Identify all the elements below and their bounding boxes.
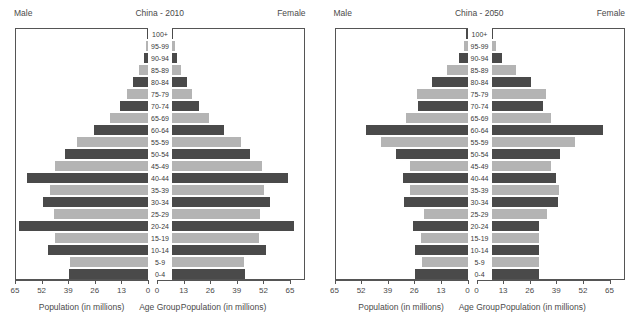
male-bar-zone: [15, 101, 148, 111]
female-bar-zone: [172, 209, 305, 219]
female-bar: [492, 149, 561, 159]
female-bar-zone: [172, 65, 305, 75]
axis-tick: [210, 280, 211, 284]
age-group-label: 5-9: [148, 256, 172, 268]
female-bar-zone: [492, 65, 625, 75]
female-bar: [492, 41, 496, 51]
male-bar: [69, 269, 148, 279]
female-bar: [172, 245, 266, 255]
female-bar-zone: [172, 149, 305, 159]
male-bar: [410, 161, 467, 171]
age-group-label: 50-54: [468, 148, 492, 160]
axis-tick: [361, 280, 362, 284]
male-bar-zone: [15, 209, 148, 219]
female-bar: [492, 65, 516, 75]
female-bar: [492, 29, 493, 39]
pyramid-panel-2050: Male China - 2050 Female 100+95-9990-948…: [320, 0, 639, 321]
age-group-label: 15-19: [468, 232, 492, 244]
male-bar: [424, 209, 468, 219]
age-group-label: 85-89: [468, 64, 492, 76]
x-tick-labels-female-2050: 01326395265: [477, 286, 610, 298]
x-axis-male-2050: [335, 280, 468, 285]
axis-tick: [237, 280, 238, 284]
male-bar-zone: [335, 89, 468, 99]
age-group-label: 95-99: [148, 40, 172, 52]
female-bar-zone: [492, 185, 625, 195]
axis-tick-label: 26: [90, 286, 99, 295]
age-group-label: 50-54: [148, 148, 172, 160]
axis-tick-label: 13: [117, 286, 126, 295]
female-bar-zone: [492, 233, 625, 243]
axis-tick-label: 52: [37, 286, 46, 295]
female-bar-zone: [492, 173, 625, 183]
x-axis-female-2050: [477, 280, 610, 285]
female-bar: [172, 101, 199, 111]
axis-tick: [15, 280, 16, 284]
female-bar-zone: [492, 149, 625, 159]
axis-tick-label: 13: [436, 286, 445, 295]
male-bar: [381, 137, 467, 147]
female-bar-zone: [172, 233, 305, 243]
axis-tick: [388, 280, 389, 284]
panel-header-2010: Male China - 2010 Female: [0, 8, 320, 22]
female-bar: [492, 185, 560, 195]
age-group-label: 55-59: [468, 136, 492, 148]
male-bar: [410, 185, 467, 195]
female-bar: [492, 113, 552, 123]
axis-tick: [290, 280, 291, 284]
male-bar-zone: [15, 41, 148, 51]
age-group-label: 60-64: [148, 124, 172, 136]
female-bar: [172, 209, 260, 219]
female-bar: [492, 245, 540, 255]
plot-area-2050: 100+95-9990-9485-8980-8475-7970-7465-696…: [335, 28, 625, 280]
male-bar: [133, 77, 148, 87]
age-group-label: 85-89: [148, 64, 172, 76]
male-bar: [406, 113, 467, 123]
x-tick-labels-male-2050: 65523926130: [335, 286, 468, 298]
female-bar: [172, 173, 288, 183]
axis-tick: [184, 280, 185, 284]
female-bar-zone: [492, 113, 625, 123]
male-bar-zone: [15, 29, 148, 39]
male-bar-zone: [335, 233, 468, 243]
female-bar-zone: [172, 245, 305, 255]
age-group-label: 15-19: [148, 232, 172, 244]
female-bar-zone: [492, 53, 625, 63]
male-bar: [48, 245, 148, 255]
female-bar-zone: [172, 125, 305, 135]
age-group-label: 45-49: [468, 160, 492, 172]
male-bar-zone: [335, 221, 468, 231]
x-axis-label-female: Population (in millions): [157, 302, 290, 312]
male-bar: [127, 89, 148, 99]
male-bar-zone: [15, 125, 148, 135]
male-bar-zone: [15, 89, 148, 99]
axis-tick-label: 39: [232, 286, 241, 295]
male-bar-zone: [15, 221, 148, 231]
female-bar-zone: [492, 257, 625, 267]
female-bar: [492, 233, 539, 243]
male-bar-zone: [335, 77, 468, 87]
age-group-label: 80-84: [468, 76, 492, 88]
male-bar: [94, 125, 148, 135]
female-bar-zone: [492, 245, 625, 255]
age-group-label: 0-4: [148, 268, 172, 280]
axis-tick-label: 13: [499, 286, 508, 295]
female-bar-zone: [172, 197, 305, 207]
female-bar-zone: [492, 41, 625, 51]
female-bar: [492, 101, 544, 111]
age-group-label: 25-29: [148, 208, 172, 220]
female-bar: [172, 149, 250, 159]
female-side-label: Female: [277, 8, 305, 18]
female-bar: [172, 89, 192, 99]
axis-tick: [503, 280, 504, 284]
axis-tick-label: 26: [410, 286, 419, 295]
male-bar-zone: [335, 161, 468, 171]
population-pyramid-figure: Male China - 2010 Female 100+95-9990-948…: [0, 0, 639, 321]
axis-tick-label: 0: [474, 286, 478, 295]
male-bar-zone: [15, 245, 148, 255]
axis-line: [15, 280, 148, 281]
female-bar: [492, 221, 539, 231]
male-bar-zone: [335, 29, 468, 39]
female-bar: [492, 161, 551, 171]
age-group-label: 10-14: [468, 244, 492, 256]
